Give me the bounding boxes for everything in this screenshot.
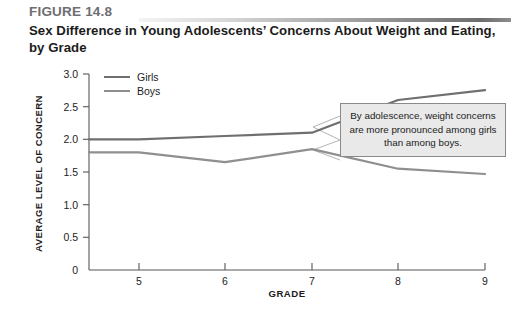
x-tick-label-9: 9 — [473, 275, 497, 287]
y-tick-label-0-5: 0.5 — [48, 231, 78, 243]
x-axis-title: GRADE — [89, 288, 485, 299]
y-tick-label-0: 0 — [48, 264, 78, 276]
chart-plot: 3.0 2.5 2.0 1.5 1.0 0.5 0 5 6 7 8 9 AVER… — [0, 0, 522, 309]
x-tick-label-8: 8 — [386, 275, 410, 287]
x-tick-label-7: 7 — [300, 275, 324, 287]
y-axis-ticks — [83, 74, 89, 237]
y-tick-label-1-0: 1.0 — [48, 199, 78, 211]
chart-legend: Girls Boys — [104, 70, 160, 98]
x-tick-label-5: 5 — [127, 275, 151, 287]
y-tick-label-1-5: 1.5 — [48, 166, 78, 178]
y-axis-title: AVERAGE LEVEL OF CONCERN — [33, 74, 44, 274]
x-tick-label-6: 6 — [213, 275, 237, 287]
legend-label-girls: Girls — [137, 71, 159, 83]
x-axis-ticks — [139, 263, 485, 270]
legend-swatch-boys — [104, 90, 130, 92]
y-tick-label-3-0: 3.0 — [48, 68, 78, 80]
y-tick-label-2-0: 2.0 — [48, 133, 78, 145]
figure-container: FIGURE 14.8 Sex Difference in Young Adol… — [0, 0, 522, 309]
legend-item-boys: Boys — [104, 84, 160, 98]
legend-label-boys: Boys — [137, 85, 160, 97]
y-tick-label-2-5: 2.5 — [48, 101, 78, 113]
legend-item-girls: Girls — [104, 70, 160, 84]
legend-swatch-girls — [104, 76, 130, 78]
callout-annotation: By adolescence, weight concerns are more… — [340, 103, 506, 157]
